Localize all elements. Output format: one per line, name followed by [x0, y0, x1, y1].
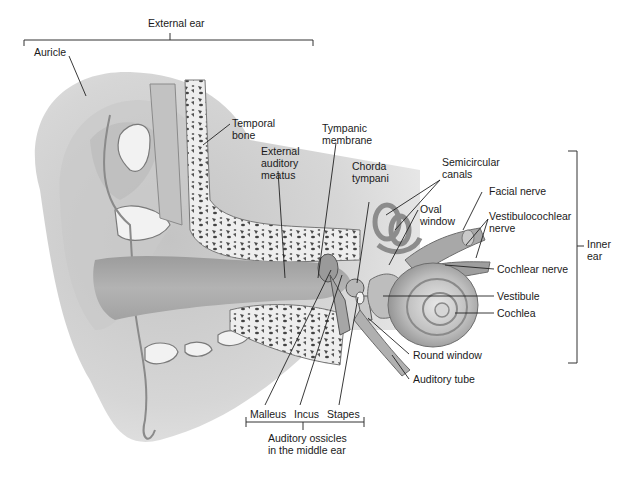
- malleus-label: Malleus: [250, 408, 286, 420]
- semicircular-canals-label: Semicircular canals: [442, 156, 500, 180]
- round-window-label: Round window: [413, 349, 482, 361]
- cochlea-shape: [388, 263, 478, 347]
- temporal-bone-label: Temporal bone: [232, 117, 275, 141]
- cochlea-label: Cochlea: [497, 307, 536, 319]
- ear-anatomy-diagram: External ear Inner ear Auditory ossicles…: [0, 0, 629, 490]
- chorda-tympani-label: Chorda tympani: [352, 160, 389, 184]
- auricle-label: Auricle: [34, 46, 66, 58]
- ossicles-group-label: Auditory ossicles in the middle ear: [268, 432, 347, 456]
- stapes-label: Stapes: [327, 408, 360, 420]
- oval-window-label: Oval window: [420, 203, 455, 227]
- incus-label: Incus: [294, 408, 319, 420]
- vestibule-label: Vestibule: [497, 290, 540, 302]
- vestibulocochlear-nerve-label: Vestibulocochlear nerve: [489, 210, 571, 234]
- external-auditory-meatus-label: External auditory meatus: [261, 145, 300, 181]
- external-ear-label: External ear: [148, 17, 205, 29]
- auditory-tube-label: Auditory tube: [413, 373, 475, 385]
- facial-nerve-label: Facial nerve: [489, 185, 546, 197]
- inner-ear-label: Inner ear: [587, 238, 611, 262]
- tympanic-membrane-label: Tympanic membrane: [322, 122, 372, 146]
- cochlear-nerve-label: Cochlear nerve: [497, 263, 568, 275]
